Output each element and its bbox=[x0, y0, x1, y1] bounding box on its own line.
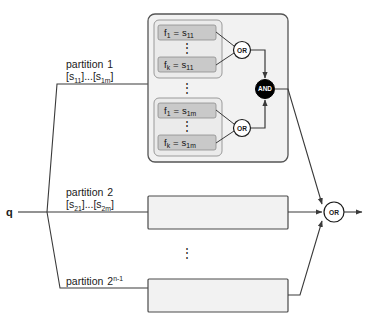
partition-last-box bbox=[148, 279, 288, 312]
partition-2-box bbox=[148, 196, 288, 229]
clause-group-m-ellipsis: ⋮ bbox=[181, 119, 193, 133]
partition-1-range: [s11]...[s1m] bbox=[66, 70, 114, 84]
svg-text:OR: OR bbox=[237, 47, 247, 54]
partition-1-group-ellipsis: ⋮ bbox=[181, 81, 193, 95]
partition-2-range: [s21]...[s2m] bbox=[66, 198, 114, 212]
partition-2-label: partition2 bbox=[66, 186, 113, 198]
diagram-canvas: q f1=s11 ⋮ fk=s11 OR ⋮ f1=s1m ⋮ fk=s1m O… bbox=[0, 0, 375, 327]
clause-group-1-ellipsis: ⋮ bbox=[181, 41, 193, 55]
partition-1-label: partition1 bbox=[66, 58, 113, 70]
svg-text:OR: OR bbox=[329, 209, 339, 216]
svg-text:OR: OR bbox=[237, 125, 247, 132]
partition-last-label: partition2n-1 bbox=[66, 275, 123, 287]
svg-text:AND: AND bbox=[258, 85, 272, 92]
figure-diagram: q f1=s11 ⋮ fk=s11 OR ⋮ f1=s1m ⋮ fk=s1m O… bbox=[0, 0, 375, 327]
partition-rows-ellipsis: ⋮ bbox=[181, 246, 193, 260]
input-label-q: q bbox=[6, 206, 13, 218]
